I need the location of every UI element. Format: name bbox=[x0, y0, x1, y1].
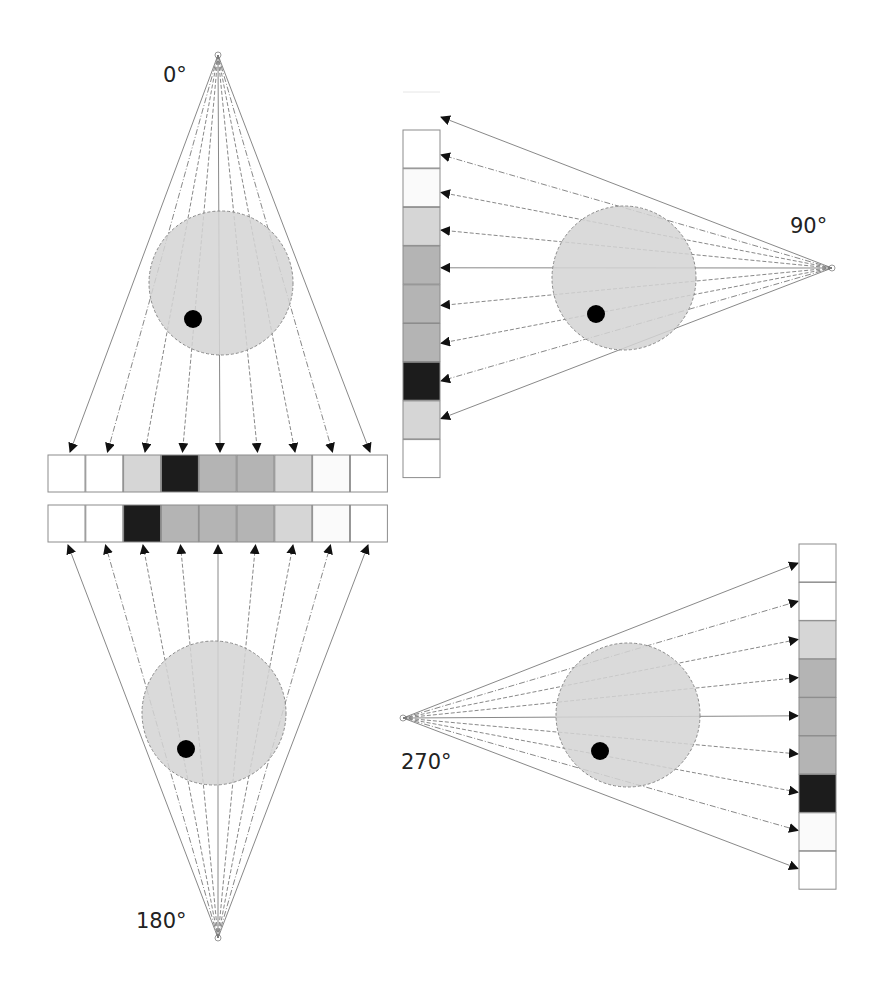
detector-cell-p180-1 bbox=[86, 505, 123, 542]
detector-cell-p180-4 bbox=[199, 505, 236, 542]
phantom-disk-p180 bbox=[142, 641, 286, 785]
detector-cell-p180-8 bbox=[350, 505, 387, 542]
angle-label-90: 90° bbox=[790, 214, 827, 238]
detector-cell-p90-0 bbox=[403, 130, 440, 168]
dense-inclusion-p90 bbox=[587, 305, 605, 323]
dense-inclusion-p180 bbox=[177, 740, 195, 758]
phantom-disk-p270 bbox=[556, 643, 700, 787]
dense-inclusion-p270 bbox=[591, 742, 609, 760]
phantom-disk-p90 bbox=[552, 206, 696, 350]
detector-cell-p0-5 bbox=[237, 455, 274, 492]
detector-cell-p180-5 bbox=[237, 505, 274, 542]
detector-cell-p270-4 bbox=[799, 698, 836, 736]
dense-inclusion-p0 bbox=[184, 310, 202, 328]
detector-cell-p0-6 bbox=[275, 455, 312, 492]
detector-cell-p270-0 bbox=[799, 544, 836, 582]
angle-label-270: 270° bbox=[401, 750, 452, 774]
phantom-disk-p0 bbox=[149, 211, 293, 355]
detector-cell-p0-7 bbox=[313, 455, 350, 492]
rays-layer bbox=[68, 52, 835, 941]
detector-cell-p0-4 bbox=[199, 455, 236, 492]
detector-cell-p90-3 bbox=[403, 246, 440, 284]
detector-cell-p0-3 bbox=[161, 455, 198, 492]
detector-cell-p270-6 bbox=[799, 774, 836, 812]
ct-projection-diagram: 0° 90° 180° 270° bbox=[0, 0, 886, 987]
detector-cell-p270-1 bbox=[799, 582, 836, 620]
detector-cell-p0-2 bbox=[124, 455, 161, 492]
detector-cell-p90-4 bbox=[403, 285, 440, 323]
detector-cell-p90-5 bbox=[403, 324, 440, 362]
detector-cell-p90-6 bbox=[403, 362, 440, 400]
detector-cell-p270-3 bbox=[799, 659, 836, 697]
detector-cell-p180-2 bbox=[124, 505, 161, 542]
detector-cell-p180-7 bbox=[313, 505, 350, 542]
detector-cell-p90-2 bbox=[403, 207, 440, 245]
detector-cell-p270-7 bbox=[799, 813, 836, 851]
detector-cell-p90-7 bbox=[403, 401, 440, 439]
detector-cell-p0-8 bbox=[350, 455, 387, 492]
detector-cell-p180-6 bbox=[275, 505, 312, 542]
detector-cell-p90-8 bbox=[403, 440, 440, 478]
detector-cell-p180-3 bbox=[161, 505, 198, 542]
angle-label-0: 0° bbox=[163, 63, 187, 87]
detector-cell-p270-5 bbox=[799, 736, 836, 774]
detector-cell-p180-0 bbox=[48, 505, 85, 542]
detector-cell-p90-1 bbox=[403, 169, 440, 207]
detector-cell-p270-2 bbox=[799, 621, 836, 659]
detector-cell-p0-1 bbox=[86, 455, 123, 492]
detector-cell-p0-0 bbox=[48, 455, 85, 492]
labels-layer: 0° 90° 180° 270° bbox=[136, 63, 827, 933]
angle-label-180: 180° bbox=[136, 909, 187, 933]
detector-cell-p270-8 bbox=[799, 851, 836, 889]
